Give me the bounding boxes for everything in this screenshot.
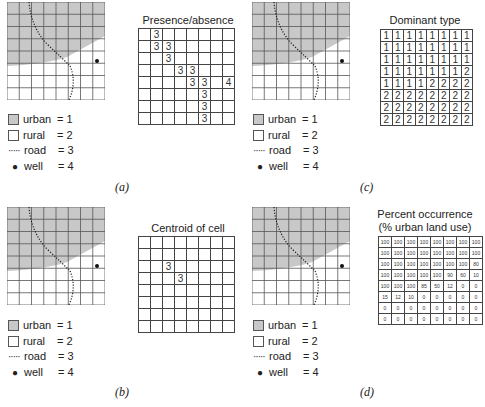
grid-cell: 2 <box>438 114 450 126</box>
grid-cell <box>199 309 211 321</box>
grid-cell: 0 <box>418 314 431 325</box>
grid-cell <box>199 237 211 249</box>
grid-cell: 0 <box>457 303 470 314</box>
grid-cell: 3 <box>175 273 187 285</box>
legend-item-well: ●well= 4 <box>253 159 319 175</box>
grid-cell: 0 <box>379 314 392 325</box>
grid-cell: 0 <box>431 292 444 303</box>
grid-cell: 2 <box>381 114 393 126</box>
grid-cell: 100 <box>405 281 418 292</box>
grid-cell <box>223 309 235 321</box>
legend-d: urban= 1rural= 2·····road= 3●well= 4 <box>253 318 319 380</box>
grid-cell <box>223 89 235 101</box>
legend-value: = 2 <box>302 334 318 349</box>
grid-cell <box>163 285 175 297</box>
grid-cell: 2 <box>461 102 473 114</box>
grid-cell: 0 <box>470 314 483 325</box>
legend-value: = 2 <box>57 128 73 143</box>
grid-cell: 0 <box>392 314 405 325</box>
grid-cell: 100 <box>470 248 483 259</box>
grid-cell: 100 <box>392 281 405 292</box>
grid-cell <box>139 309 151 321</box>
grid-cell: 2 <box>404 102 416 114</box>
grid-cell <box>187 41 199 53</box>
grid-cell <box>187 309 199 321</box>
grid-cell: 1 <box>381 78 393 90</box>
grid-cell <box>223 53 235 65</box>
grid-cell: 100 <box>392 237 405 248</box>
grid-cell <box>223 29 235 41</box>
grid-cell: 1 <box>461 54 473 66</box>
grid-cell <box>151 113 163 125</box>
grid-cell <box>187 273 199 285</box>
grid-cell: 0 <box>444 303 457 314</box>
grid-cell: 100 <box>444 248 457 259</box>
grid-cell <box>175 285 187 297</box>
grid-cell: 3 <box>187 65 199 77</box>
grid-cell <box>175 261 187 273</box>
grid-cell <box>223 249 235 261</box>
legend-name: urban <box>268 318 302 333</box>
grid-cell: 2 <box>392 114 404 126</box>
grid-cell: 3 <box>163 41 175 53</box>
legend-item-rural: rural= 2 <box>253 334 319 350</box>
legend-item-road: ·····road= 3 <box>253 349 319 365</box>
grid-cell: 1 <box>381 30 393 42</box>
title-centroid: Centroid of cell <box>128 222 248 234</box>
grid-cell: 0 <box>418 303 431 314</box>
legend-value: = 4 <box>303 365 319 380</box>
legend-value: = 4 <box>303 159 319 174</box>
legend-name: well <box>24 365 58 380</box>
grid-cell: 1 <box>404 30 416 42</box>
grid-cell: 1 <box>461 30 473 42</box>
grid-cell <box>139 321 151 333</box>
title-percent-occurrence: Percent occurrence <box>365 208 485 220</box>
road-dots-icon: ····· <box>253 349 267 364</box>
grid-cell: 0 <box>457 281 470 292</box>
grid-cell <box>223 41 235 53</box>
title-presence-absence: Presence/absence <box>128 14 248 26</box>
grid-cell <box>175 41 187 53</box>
legend-item-road: ·····road= 3 <box>8 349 74 365</box>
grid-cell <box>211 261 223 273</box>
legend-b: urban= 1rural= 2·····road= 3●well= 4 <box>8 318 74 380</box>
grid-cell <box>151 297 163 309</box>
grid-cell: 0 <box>392 303 405 314</box>
grid-cell: 2 <box>461 66 473 78</box>
road-dots-icon: ····· <box>8 349 22 364</box>
grid-cell <box>199 285 211 297</box>
grid-cell: 2 <box>427 90 439 102</box>
grid-cell: 10 <box>405 292 418 303</box>
grid-cell <box>139 297 151 309</box>
grid-cell <box>163 113 175 125</box>
grid-cell: 100 <box>418 270 431 281</box>
legend-value: = 1 <box>57 112 73 127</box>
rural-swatch-icon <box>8 130 19 141</box>
grid-cell <box>211 285 223 297</box>
grid-cell <box>187 89 199 101</box>
grid-cell: 100 <box>392 259 405 270</box>
grid-cell <box>187 237 199 249</box>
grid-cell <box>163 273 175 285</box>
urban-swatch-icon <box>8 114 19 125</box>
grid-cell <box>187 261 199 273</box>
grid-cell: 2 <box>404 114 416 126</box>
grid-cell <box>199 273 211 285</box>
grid-cell <box>151 89 163 101</box>
legend-name: well <box>269 365 303 380</box>
road-dots-icon: ····· <box>8 143 22 158</box>
grid-cell <box>175 237 187 249</box>
legend-item-road: ·····road= 3 <box>253 143 319 159</box>
source-map-d <box>252 207 350 305</box>
legend-value: = 1 <box>302 112 318 127</box>
grid-cell: 2 <box>461 90 473 102</box>
legend-name: road <box>269 143 303 158</box>
grid-cell: 1 <box>450 30 462 42</box>
grid-cell <box>139 53 151 65</box>
grid-cell: 3 <box>199 101 211 113</box>
grid-cell <box>199 297 211 309</box>
grid-cell: 100 <box>457 237 470 248</box>
grid-cell: 100 <box>405 248 418 259</box>
grid-cell: 100 <box>431 237 444 248</box>
grid-cell <box>211 77 223 89</box>
